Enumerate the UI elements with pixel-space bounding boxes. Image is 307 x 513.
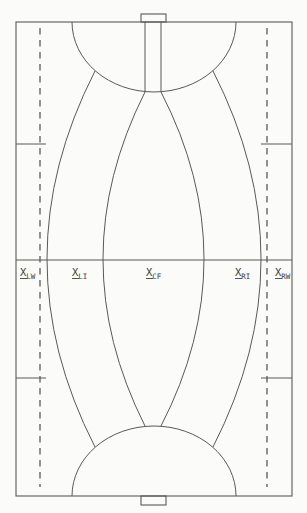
field-border bbox=[16, 22, 292, 496]
cf-ri-boundary-curve bbox=[161, 92, 204, 426]
ri-rw-boundary-curve bbox=[213, 71, 261, 447]
bottom-goal-arc bbox=[72, 426, 236, 496]
top-goal-arc bbox=[72, 22, 236, 92]
top-goal bbox=[141, 14, 166, 22]
li-cf-boundary-curve bbox=[103, 92, 145, 426]
bottom-goal bbox=[141, 496, 166, 505]
position-labels: XLW XLI XCF XRI XRW bbox=[20, 266, 291, 281]
field-position-diagram: XLW XLI XCF XRI XRW bbox=[0, 0, 307, 513]
lw-li-boundary-curve bbox=[47, 71, 95, 447]
scanned-figure-page: XLW XLI XCF XRI XRW bbox=[0, 0, 307, 513]
